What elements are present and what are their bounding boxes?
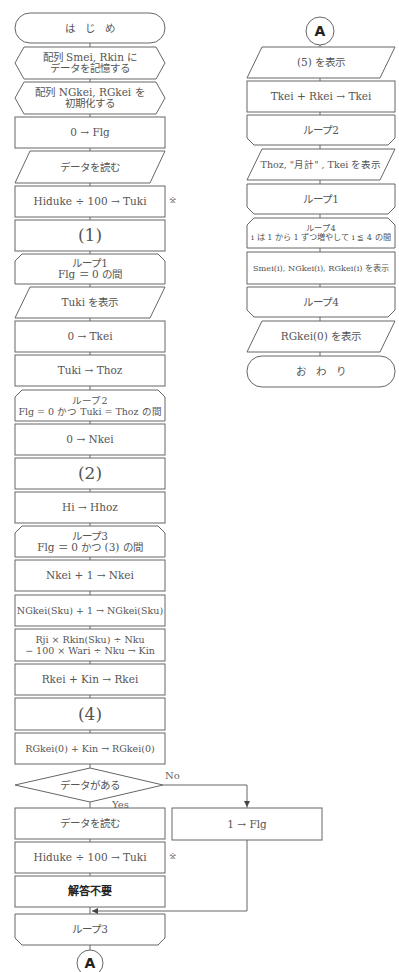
add-tkei-process: Tkei + Rkei → Tkei [247,81,395,112]
display-blank5-io: (5) を表示 [247,47,395,78]
note-mark-1: ※ [169,195,177,205]
read-data-process: データを読む [15,808,165,839]
connector-a-out: A [77,950,103,972]
note-mark-2: ※ [169,851,177,861]
loop2-end: ループ2 [247,115,395,145]
increment-nkei-process: Nkei + 1 → Nkei [15,560,165,591]
init-arrays-preparation: 配列 NGkei, RGkei を 初期化する [15,82,165,114]
end-terminal: お わ り [247,356,395,387]
display-rgkei0-io: RGkei(0) を表示 [247,321,395,352]
loop4-end: ループ4 [247,287,395,317]
blank-2-process: (2) [15,458,165,489]
loop1-end: ループ1 [247,184,395,214]
blank-1-process: (1) [15,220,165,251]
init-flg-process: 0 → Flg [15,117,165,148]
connector-a-in: A [306,17,334,45]
data-exists-decision: データがある [15,768,165,802]
init-tkei-process: 0 → Tkei [15,321,165,352]
save-hhoz-process: Hi → Hhoz [15,492,165,523]
decision-yes-label: Yes [112,799,129,810]
display-monthly-io: Thoz, "月計" , Tkei を表示 [247,149,395,180]
no-answer-needed-process: 解答不要 [15,876,165,907]
read-data-io: データを読む [15,151,165,183]
init-nkei-process: 0 → Nkei [15,424,165,455]
set-flg-1-process: 1 → Flg [172,808,322,840]
loop1-start: ループ1 Flg ＝ 0 の間 [15,254,165,284]
add-rgkei0-process: RGkei(0) + Kin → RGkei(0) [15,733,165,764]
start-terminal: は じ め [15,13,165,43]
loop3-end: ループ3 [15,914,165,945]
save-thoz-process: Tuki → Thoz [15,355,165,386]
loop2-start: ループ2 Flg = 0 かつ Tuki = Thoz の間 [15,390,165,421]
display-tuki-io: Tuki を表示 [15,287,165,318]
loop4-start: ループ4 i は 1 から 1 ずつ増やして i ≦ 4 の間 [247,218,395,248]
calc-kin-process: Rji × Rkin(Sku) ÷ Nku − 100 × Wari ÷ Nku… [15,629,165,661]
blank-4-process: (4) [15,698,165,730]
loop3-start: ループ3 Flg ＝ 0 かつ (3) の間 [15,526,165,557]
store-arrays-preparation: 配列 Smei, Rkin に データを記憶する [15,47,165,79]
increment-ngkei-process: NGkei(Sku) + 1 → NGkei(Sku) [15,595,165,626]
add-rkei-process: Rkei + Kin → Rkei [15,664,165,695]
calc-tuki-process: Hiduke ÷ 100 → Tuki [15,186,165,217]
display-arrays-process: Smei(i), NGkei(i), RGkei(i) を表示 [247,252,395,284]
decision-no-label: No [165,770,180,781]
calc-tuki-process-2: Hiduke ÷ 100 → Tuki [15,842,165,873]
